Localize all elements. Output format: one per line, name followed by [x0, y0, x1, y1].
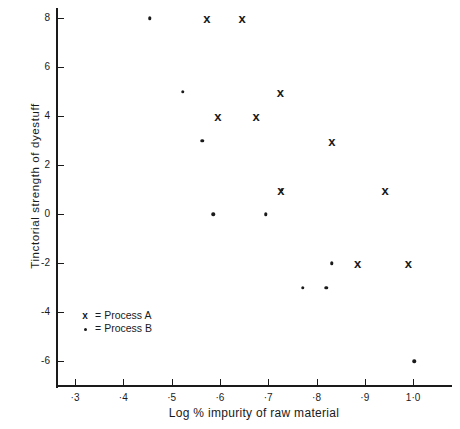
- x-tick-label: ·9: [350, 393, 380, 403]
- y-tick-label: 8: [28, 13, 50, 23]
- y-axis-title: Tinctorial strength of dyestuff: [29, 66, 41, 306]
- x-tick-label: ·4: [108, 393, 138, 403]
- data-point-process-a: x: [238, 12, 245, 25]
- y-axis-line: [56, 8, 58, 388]
- y-tick-mark: [58, 361, 64, 362]
- legend-equals: =: [92, 322, 104, 335]
- legend-item-process-b: = Process B: [78, 322, 152, 335]
- legend-equals: =: [92, 309, 104, 322]
- data-point-process-b: [211, 212, 215, 216]
- scatter-plot: 86420-2-4-6·3·4·5·6·7·8·91·0 xxxxxxxxxx …: [0, 0, 460, 429]
- data-point-process-b: [280, 188, 284, 192]
- y-tick-label: -6: [28, 356, 50, 366]
- x-tick-label: ·5: [157, 393, 187, 403]
- legend: x = Process A = Process B: [78, 309, 152, 335]
- y-tick-label: -4: [28, 307, 50, 317]
- x-tick-label: 1·0: [398, 393, 428, 403]
- x-tick-label: ·7: [253, 393, 283, 403]
- data-point-process-a: x: [381, 183, 388, 196]
- data-point-process-b: [264, 212, 268, 216]
- data-point-process-b: [324, 286, 328, 290]
- data-point-process-a: x: [214, 110, 221, 123]
- y-tick-mark: [58, 67, 64, 68]
- y-tick-mark: [58, 165, 64, 166]
- data-point-process-b: [148, 16, 152, 20]
- y-tick-mark: [58, 263, 64, 264]
- x-tick-mark: [268, 379, 269, 385]
- y-tick-mark: [58, 18, 64, 19]
- data-point-process-a: x: [253, 110, 260, 123]
- y-tick-mark: [58, 312, 64, 313]
- data-point-process-b: [301, 286, 305, 290]
- x-tick-label: ·6: [205, 393, 235, 403]
- x-tick-mark: [220, 379, 221, 385]
- data-point-process-a: x: [328, 134, 335, 147]
- data-point-process-b: [412, 359, 416, 363]
- legend-symbol-dot-icon: [78, 322, 92, 335]
- x-tick-mark: [75, 379, 76, 385]
- legend-label-process-a: Process A: [104, 309, 151, 322]
- data-point-process-a: x: [405, 257, 412, 270]
- legend-item-process-a: x = Process A: [78, 309, 152, 322]
- x-tick-label: ·8: [302, 393, 332, 403]
- x-axis-line: [56, 385, 452, 387]
- x-tick-mark: [365, 379, 366, 385]
- y-tick-mark: [58, 116, 64, 117]
- data-point-process-a: x: [277, 85, 284, 98]
- data-point-process-b: [200, 139, 204, 143]
- data-point-process-b: [181, 90, 185, 94]
- legend-symbol-x-icon: x: [78, 309, 92, 322]
- data-point-process-a: x: [203, 12, 210, 25]
- data-point-process-b: [330, 261, 334, 265]
- y-tick-mark: [58, 214, 64, 215]
- data-point-process-a: x: [354, 257, 361, 270]
- legend-label-process-b: Process B: [104, 322, 152, 335]
- x-tick-mark: [172, 379, 173, 385]
- x-tick-mark: [317, 379, 318, 385]
- x-tick-mark: [123, 379, 124, 385]
- x-tick-mark: [413, 379, 414, 385]
- x-axis-title: Log % impurity of raw material: [56, 406, 452, 420]
- x-tick-label: ·3: [60, 393, 90, 403]
